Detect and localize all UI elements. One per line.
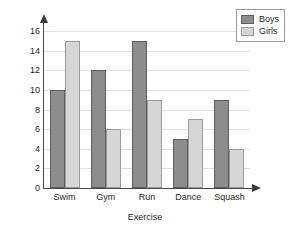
legend-item-girls: Girls (241, 26, 279, 37)
y-axis-tick-labels: 0246810121416 (8, 0, 40, 236)
legend-label-girls: Girls (259, 27, 278, 36)
bar-chart: Number of students 0246810121416 SwimGym… (0, 0, 291, 236)
bar-gym-boys (91, 70, 106, 188)
y-tick-label: 14 (14, 47, 40, 56)
bar-dance-girls (188, 119, 203, 188)
legend-item-boys: Boys (241, 14, 279, 25)
y-tick-label: 4 (14, 145, 40, 154)
y-tick-label: 8 (14, 106, 40, 115)
y-tick-label: 0 (14, 184, 40, 193)
x-tick-label-swim: Swim (44, 192, 85, 202)
plot-area (44, 31, 250, 188)
gridline (44, 31, 250, 32)
bar-swim-girls (65, 41, 80, 188)
legend-swatch-girls-icon (241, 27, 254, 36)
y-tick-label: 10 (14, 86, 40, 95)
bar-run-boys (132, 41, 147, 188)
x-tick-label-gym: Gym (85, 192, 126, 202)
x-tick-label-squash: Squash (209, 192, 250, 202)
x-axis-tick-labels: SwimGymRunDanceSquash (44, 192, 250, 208)
y-axis-arrow-icon (40, 14, 48, 23)
bar-run-girls (147, 100, 162, 188)
x-tick-label-run: Run (126, 192, 167, 202)
y-tick-label: 6 (14, 125, 40, 134)
legend-swatch-boys-icon (241, 15, 254, 24)
x-axis-title: Exercise (40, 212, 250, 222)
x-axis-line (43, 188, 254, 189)
bar-dance-boys (173, 139, 188, 188)
bar-swim-boys (50, 90, 65, 188)
bar-gym-girls (106, 129, 121, 188)
y-tick-label: 12 (14, 66, 40, 75)
y-tick-label: 16 (14, 27, 40, 36)
chart-legend: Boys Girls (236, 9, 285, 42)
x-tick-label-dance: Dance (168, 192, 209, 202)
y-tick-label: 2 (14, 164, 40, 173)
x-axis-arrow-icon (252, 184, 261, 192)
bar-squash-boys (214, 100, 229, 188)
bar-squash-girls (229, 149, 244, 188)
legend-label-boys: Boys (259, 15, 279, 24)
